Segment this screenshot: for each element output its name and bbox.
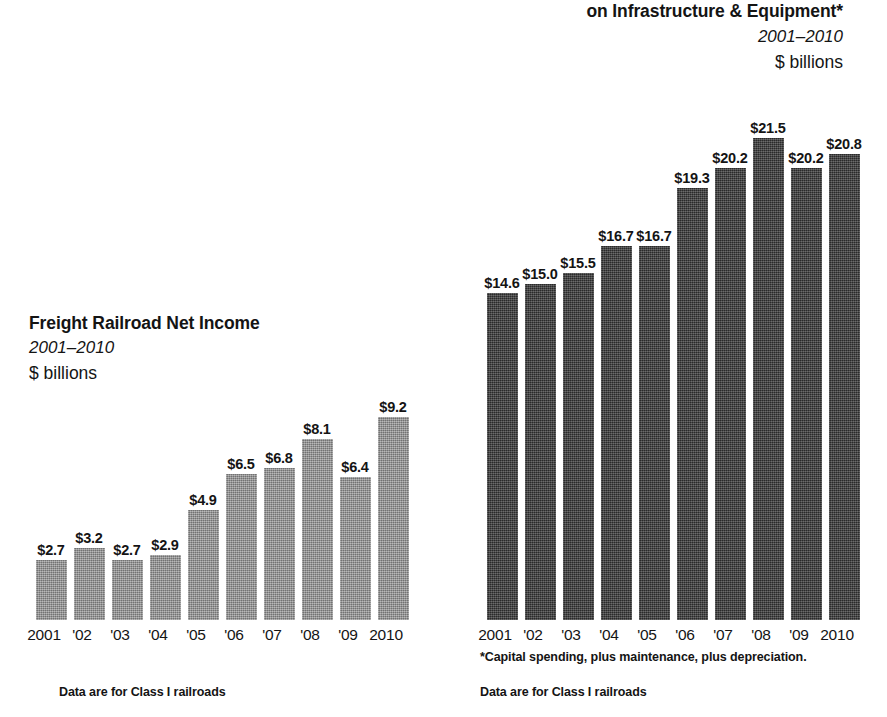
bar-value-label: $15.0 <box>522 267 557 282</box>
bar-value-label: $6.4 <box>341 460 368 475</box>
bar-value-label: $2.9 <box>151 538 178 553</box>
bar-column[interactable]: $14.6 <box>483 120 521 620</box>
bar-column[interactable]: $21.5 <box>749 120 787 620</box>
x-axis-tick-label: '09 <box>780 626 818 644</box>
bar[interactable] <box>378 417 409 620</box>
x-axis-tick-label: '09 <box>329 626 367 644</box>
bar[interactable] <box>563 273 594 620</box>
bar-column[interactable]: $2.7 <box>108 400 146 620</box>
bar-value-label: $20.8 <box>826 137 861 152</box>
left-chart-x-axis: 2001'02'03'04'05'06'07'08'092010 <box>25 626 420 644</box>
bar-value-label: $8.1 <box>303 422 330 437</box>
bar-value-label: $3.2 <box>75 531 102 546</box>
right-chart-subtitle: 2001–2010 <box>758 26 843 48</box>
x-axis-tick-label: '03 <box>101 626 139 644</box>
bar[interactable] <box>36 560 67 620</box>
bar-column[interactable]: $2.9 <box>146 400 184 620</box>
bar[interactable] <box>74 548 105 620</box>
bar-column[interactable]: $6.5 <box>222 400 260 620</box>
bar[interactable] <box>150 555 181 620</box>
bar-column[interactable]: $15.5 <box>559 120 597 620</box>
bar[interactable] <box>715 168 746 620</box>
x-axis-tick-label: '08 <box>291 626 329 644</box>
left-chart-plot-area: $2.7$3.2$2.7$2.9$4.9$6.5$6.8$8.1$6.4$9.2 <box>32 400 413 620</box>
x-axis-tick-label: '06 <box>666 626 704 644</box>
right-chart-units: $ billions <box>775 50 843 74</box>
bar-value-label: $16.7 <box>598 229 633 244</box>
x-axis-tick-label: '04 <box>590 626 628 644</box>
x-axis-tick-label: '06 <box>215 626 253 644</box>
bar-column[interactable]: $15.0 <box>521 120 559 620</box>
bar[interactable] <box>340 477 371 620</box>
right-chart-panel: on Infrastructure & Equipment* 2001–2010… <box>440 0 887 717</box>
bar-value-label: $2.7 <box>113 543 140 558</box>
bar-column[interactable]: $2.7 <box>32 400 70 620</box>
bar-column[interactable]: $3.2 <box>70 400 108 620</box>
bar[interactable] <box>226 474 257 620</box>
left-chart-panel: Freight Railroad Net Income 2001–2010 $ … <box>0 0 440 717</box>
x-axis-tick-label: '04 <box>139 626 177 644</box>
bar-value-label: $20.2 <box>712 151 747 166</box>
x-axis-tick-label: 2001 <box>476 626 514 644</box>
bar-value-label: $4.9 <box>189 493 216 508</box>
left-chart-source-note: Data are for Class I railroads <box>59 684 226 700</box>
bar-column[interactable]: $4.9 <box>184 400 222 620</box>
bar[interactable] <box>829 154 860 620</box>
x-axis-tick-label: '05 <box>628 626 666 644</box>
bar-value-label: $19.3 <box>674 171 709 186</box>
bar-column[interactable]: $16.7 <box>597 120 635 620</box>
bar-column[interactable]: $9.2 <box>374 400 412 620</box>
x-axis-tick-label: '07 <box>704 626 742 644</box>
x-axis-tick-label: '02 <box>63 626 101 644</box>
bar-column[interactable]: $16.7 <box>635 120 673 620</box>
bar[interactable] <box>525 284 556 620</box>
bar[interactable] <box>112 560 143 620</box>
bar-column[interactable]: $6.8 <box>260 400 298 620</box>
bar-column[interactable]: $8.1 <box>298 400 336 620</box>
x-axis-tick-label: 2001 <box>25 626 63 644</box>
bar-column[interactable]: $20.2 <box>711 120 749 620</box>
bar-value-label: $9.2 <box>379 400 406 415</box>
left-chart-units: $ billions <box>29 361 97 385</box>
bar-value-label: $14.6 <box>484 276 519 291</box>
right-chart-plot-area: $14.6$15.0$15.5$16.7$16.7$19.3$20.2$21.5… <box>483 120 864 620</box>
bar[interactable] <box>753 138 784 620</box>
bar-column[interactable]: $19.3 <box>673 120 711 620</box>
bar[interactable] <box>677 188 708 620</box>
x-axis-tick-label: '05 <box>177 626 215 644</box>
bar-column[interactable]: $20.8 <box>825 120 863 620</box>
bar-value-label: $6.5 <box>227 457 254 472</box>
right-chart-footnote: *Capital spending, plus maintenance, plu… <box>480 649 807 665</box>
bar[interactable] <box>601 246 632 620</box>
bar-value-label: $20.2 <box>788 151 823 166</box>
bar[interactable] <box>264 468 295 620</box>
bar[interactable] <box>791 168 822 620</box>
left-chart-subtitle: 2001–2010 <box>29 337 114 359</box>
left-chart-title: Freight Railroad Net Income <box>29 312 260 334</box>
right-chart-x-axis: 2001'02'03'04'05'06'07'08'092010 <box>476 626 871 644</box>
bar-column[interactable]: $20.2 <box>787 120 825 620</box>
bar[interactable] <box>302 439 333 620</box>
bar[interactable] <box>639 246 670 620</box>
right-chart-title: on Infrastructure & Equipment* <box>586 0 843 22</box>
x-axis-tick-label: '08 <box>742 626 780 644</box>
x-axis-tick-label: '07 <box>253 626 291 644</box>
x-axis-tick-label: 2010 <box>367 626 405 644</box>
right-chart-source-note: Data are for Class I railroads <box>480 684 647 700</box>
bar-value-label: $2.7 <box>37 543 64 558</box>
bar-value-label: $6.8 <box>265 451 292 466</box>
x-axis-tick-label: 2010 <box>818 626 856 644</box>
bar[interactable] <box>188 510 219 620</box>
x-axis-tick-label: '03 <box>552 626 590 644</box>
bar-value-label: $16.7 <box>636 229 671 244</box>
x-axis-tick-label: '02 <box>514 626 552 644</box>
bar-value-label: $15.5 <box>560 256 595 271</box>
bar[interactable] <box>487 293 518 620</box>
bar-column[interactable]: $6.4 <box>336 400 374 620</box>
bar-value-label: $21.5 <box>750 121 785 136</box>
